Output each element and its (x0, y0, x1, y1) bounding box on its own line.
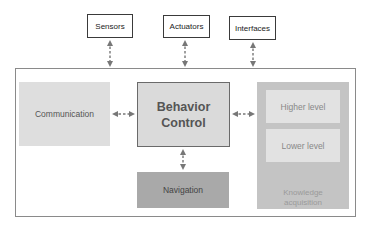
connection-arrows (0, 0, 366, 230)
